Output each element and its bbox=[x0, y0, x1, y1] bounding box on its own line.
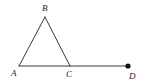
vertex-label-c: C bbox=[66, 69, 73, 79]
vertex-label-d: D bbox=[128, 71, 136, 81]
vertex-label-b: B bbox=[42, 3, 48, 13]
figure-canvas: A B C D bbox=[0, 0, 143, 84]
geometry-figure: A B C D bbox=[0, 0, 143, 84]
vertex-label-a: A bbox=[10, 68, 17, 78]
point-marker-d bbox=[125, 63, 130, 68]
